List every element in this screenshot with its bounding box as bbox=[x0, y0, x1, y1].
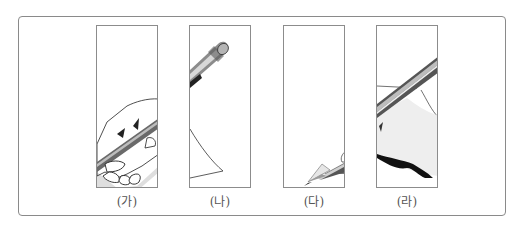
panel-label-da: (다) bbox=[283, 192, 345, 209]
panel-label-ga: (가) bbox=[96, 192, 158, 209]
pencil-tip-illustration bbox=[284, 26, 345, 188]
panel-label-ra: (라) bbox=[376, 192, 438, 209]
pencil-on-hand-illustration bbox=[377, 26, 438, 188]
pencil-eraser-illustration bbox=[190, 26, 251, 188]
panel-na bbox=[189, 25, 251, 188]
hand-grip-illustration bbox=[97, 26, 158, 188]
panel-label-na: (나) bbox=[189, 192, 251, 209]
panel-ga bbox=[96, 25, 158, 188]
panel-ra bbox=[376, 25, 438, 188]
panel-da bbox=[283, 25, 345, 188]
